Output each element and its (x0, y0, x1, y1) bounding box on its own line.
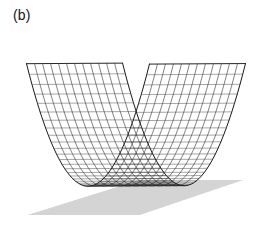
wireframe-mesh (27, 63, 246, 186)
figure-panel: (b) (0, 0, 272, 228)
surface-plot (0, 0, 272, 228)
panel-label: (b) (13, 8, 31, 22)
